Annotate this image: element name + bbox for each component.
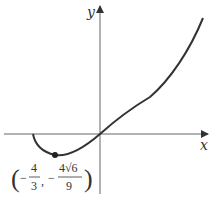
svg-text:−: − (48, 171, 55, 185)
svg-text:3: 3 (31, 179, 37, 193)
svg-text:4: 4 (31, 161, 37, 175)
svg-text:,: , (41, 174, 44, 188)
graph-figure: y x ( − 4 3 , − 4√6 9 ) (0, 0, 220, 210)
svg-text:−: − (20, 171, 27, 185)
svg-text:4√6: 4√6 (59, 161, 78, 175)
svg-text:(: ( (11, 164, 20, 193)
function-curve (33, 18, 203, 155)
svg-text:): ) (84, 164, 93, 193)
y-axis-label: y (86, 4, 96, 20)
minimum-point-dot (52, 152, 58, 158)
plot-canvas: y x ( − 4 3 , − 4√6 9 ) (0, 0, 220, 210)
x-axis-label: x (200, 137, 208, 153)
svg-text:9: 9 (66, 179, 72, 193)
minimum-point-label: ( − 4 3 , − 4√6 9 ) (11, 161, 93, 193)
